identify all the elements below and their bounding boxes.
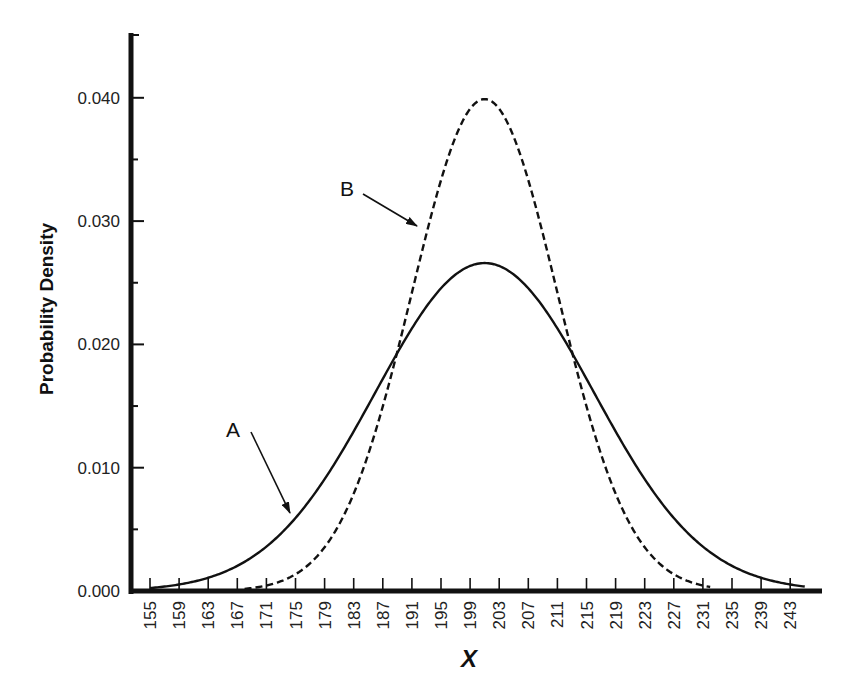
x-tick-label: 211 — [548, 601, 567, 628]
x-tick-label: 235 — [723, 601, 742, 629]
x-tick-label: 207 — [519, 601, 538, 629]
x-tick-label: 191 — [403, 601, 422, 629]
probability-density-chart: 0.0000.0100.0200.0300.040 15515916316717… — [0, 0, 864, 695]
x-tick-label: 155 — [141, 601, 160, 629]
x-tick-label: 219 — [607, 601, 626, 629]
x-tick-label: 175 — [287, 601, 306, 629]
series-group — [150, 99, 805, 589]
x-tick-label: 159 — [170, 601, 189, 629]
x-tick-label: 231 — [694, 601, 713, 629]
x-tick-label: 183 — [345, 601, 364, 629]
y-tick-label: 0.020 — [77, 335, 120, 354]
x-tick-label: 179 — [316, 601, 335, 629]
annotations: AB — [226, 177, 417, 513]
y-axis-title: Probability Density — [36, 223, 57, 396]
annotation-arrow-a — [251, 432, 290, 513]
annotation-label-a: A — [226, 418, 240, 441]
annotation-label-b: B — [340, 177, 354, 200]
x-tick-label: 171 — [257, 601, 276, 629]
x-tick-label: 199 — [461, 601, 480, 629]
x-tick-label: 195 — [432, 601, 451, 629]
x-tick-label: 239 — [752, 601, 771, 629]
curve-a — [150, 263, 805, 588]
x-tick-label: 215 — [578, 601, 597, 629]
annotation-arrow-b — [363, 194, 417, 226]
x-tick-label: 163 — [199, 601, 218, 629]
curve-b — [245, 99, 711, 589]
x-tick-label: 243 — [781, 601, 800, 629]
y-axis: 0.0000.0100.0200.0300.040 — [77, 33, 144, 601]
x-tick-label: 203 — [490, 601, 509, 629]
y-tick-label: 0.000 — [77, 582, 120, 601]
y-tick-label: 0.030 — [77, 212, 120, 231]
x-tick-label: 223 — [636, 601, 655, 629]
y-tick-label: 0.010 — [77, 459, 120, 478]
x-tick-label: 187 — [374, 601, 393, 629]
x-axis-title: X — [459, 645, 479, 672]
x-tick-label: 167 — [228, 601, 247, 629]
x-tick-label: 227 — [665, 601, 684, 629]
x-axis: 1551591631671711751791831871911951992032… — [129, 578, 822, 629]
y-tick-label: 0.040 — [77, 89, 120, 108]
